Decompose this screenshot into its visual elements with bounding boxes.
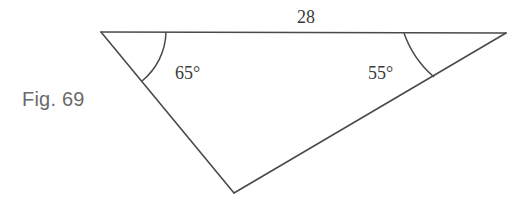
side-right xyxy=(234,33,506,193)
side-top xyxy=(101,32,506,33)
angle-right-label: 55° xyxy=(368,63,393,83)
figure-canvas: Fig. 69 28 65° 55° xyxy=(0,0,531,205)
triangle-diagram: 28 65° 55° xyxy=(0,0,531,205)
side-left xyxy=(101,32,234,193)
angle-arc-right xyxy=(404,33,434,77)
side-length-label: 28 xyxy=(297,7,315,27)
triangle xyxy=(101,32,506,193)
angle-arc-left xyxy=(142,32,166,81)
angle-left-label: 65° xyxy=(175,63,200,83)
